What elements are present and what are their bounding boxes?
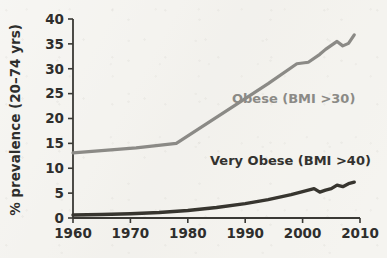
y-tick-label: 0 [55,210,64,226]
series-lines-group [73,35,354,215]
chart-figure: 0510152025303540 19601970198019902000201… [0,0,387,258]
obese-series-label: Obese (BMI >30) [232,91,355,106]
x-tick-label: 2010 [341,225,379,241]
y-tick-label: 5 [55,185,64,201]
x-tick-label: 2000 [284,225,322,241]
y-axis-ticks: 0510152025303540 [45,11,73,226]
very-obese-series-label: Very Obese (BMI >40) [210,153,371,168]
series-line-very-obese [73,182,354,215]
x-tick-label: 1990 [226,225,264,241]
x-tick-label: 1960 [54,225,92,241]
y-tick-label: 10 [45,160,64,176]
y-tick-label: 30 [45,61,64,77]
y-tick-label: 25 [45,85,64,101]
x-tick-label: 1970 [112,225,150,241]
x-axis-ticks: 196019701980199020002010 [54,218,379,241]
y-tick-label: 40 [45,11,64,27]
y-tick-label: 35 [45,36,64,52]
y-axis-title: % prevalence (20–74 yrs) [7,24,23,216]
x-tick-label: 1980 [169,225,207,241]
y-tick-label: 15 [45,135,64,151]
obesity-prevalence-line-chart: 0510152025303540 19601970198019902000201… [0,0,387,258]
y-tick-label: 20 [45,110,64,126]
